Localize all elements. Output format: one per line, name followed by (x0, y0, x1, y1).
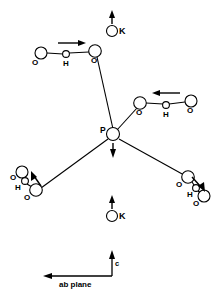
arrow-potassium-top-up (109, 10, 115, 24)
hbond-right-right-segment (169, 102, 185, 104)
hydrogen-lower-right-circle (193, 185, 200, 192)
arrow-right-hbond-left (152, 90, 180, 96)
hydrogen-lower-left-label: H (15, 183, 21, 192)
oxygen-right-near-label: O (136, 108, 142, 117)
hbond-upper-left-left-segment (47, 53, 63, 54)
hbond-right-left-segment (146, 103, 163, 104)
molecular-structure-figure: K K O H O O H O O (0, 0, 219, 291)
oxygen-upper-left-far-label: O (32, 58, 38, 67)
hbond-lower-right-upper-segment (192, 182, 194, 185)
axis-ab-label: ab plane (59, 280, 92, 289)
arrow-phosphorus-down (110, 143, 116, 158)
bond-p-to-lower-left-oxygen (41, 139, 108, 188)
oxygen-lower-left-far-circle (16, 166, 28, 178)
hydrogen-bonds (24, 52, 201, 193)
hydrogen-lower-left-circle (22, 178, 29, 185)
hydrogen-upper-left-label: H (63, 59, 69, 68)
bond-p-to-upper-left-oxygen (97, 57, 113, 129)
arrow-upper-left-head (78, 40, 86, 46)
hydrogen-upper-left-circle (63, 51, 70, 58)
bond-p-to-right-oxygen (117, 108, 137, 130)
group-right-hbond: O H O (134, 95, 197, 119)
bond-p-to-lower-right-oxygen (119, 139, 184, 175)
group-upper-left-hbond: O H O (32, 45, 101, 68)
group-lower-right-hbond: O H O (176, 171, 210, 208)
arrow-upper-left-hbond-right (58, 40, 86, 46)
phosphorus-circle (107, 128, 120, 141)
oxygen-right-far-label: O (187, 106, 193, 115)
atom-potassium-top: K (107, 26, 127, 37)
phosphate-bonds (41, 57, 184, 188)
hydrogen-right-label: H (163, 110, 169, 119)
atom-potassium-bottom: K (107, 211, 127, 222)
arrow-potassium-top-head (109, 10, 115, 18)
hydrogen-right-circle (163, 102, 170, 109)
oxygen-lower-right-near-label: O (176, 180, 182, 189)
atom-phosphorus: P (100, 125, 120, 141)
axis-ab-head (43, 273, 52, 279)
group-lower-left-hbond: O H O (10, 166, 42, 202)
arrow-right-head (152, 90, 160, 96)
hydrogen-lower-right-label: H (187, 190, 193, 199)
oxygen-upper-left-near-label: O (91, 56, 97, 65)
structure-canvas: K K O H O O H O O (0, 0, 219, 291)
axis-c-label: c (115, 259, 119, 268)
axis-c-head (109, 250, 115, 259)
potassium-bottom-label: K (119, 211, 126, 221)
oxygen-lower-left-near-label: O (24, 193, 30, 202)
arrow-potassium-bottom-up (109, 195, 115, 209)
potassium-bottom-circle (107, 211, 118, 222)
potassium-top-circle (107, 26, 118, 37)
axis-legend: c ab plane (43, 250, 119, 289)
arrow-potassium-bottom-head (109, 195, 115, 203)
phosphorus-label: P (100, 125, 106, 135)
hbond-upper-left-right-segment (69, 52, 89, 53)
oxygen-lower-left-far-label: O (10, 173, 16, 182)
oxygen-lower-right-far-label: O (193, 199, 199, 208)
oxygen-lower-right-far-circle (198, 190, 210, 202)
potassium-top-label: K (119, 26, 126, 36)
arrow-phosphorus-head (110, 149, 116, 158)
